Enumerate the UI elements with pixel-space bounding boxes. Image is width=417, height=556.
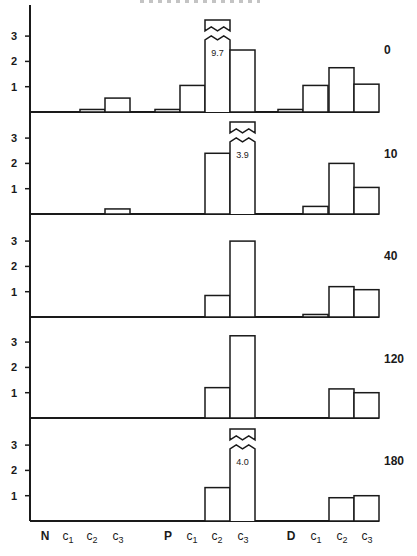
x-category-label: c3 — [361, 529, 372, 545]
bar — [354, 84, 379, 112]
bar — [354, 496, 379, 521]
panel-label: 10 — [384, 147, 398, 161]
bar — [80, 109, 105, 112]
x-category-label: c2 — [336, 529, 347, 545]
y-tick-label: 2 — [11, 260, 17, 272]
y-tick-label: 1 — [11, 286, 17, 298]
panel-label: 40 — [384, 249, 398, 263]
panel-label: 120 — [384, 352, 404, 366]
broken-bar-value: 9.7 — [211, 48, 224, 58]
y-tick-label: 1 — [11, 490, 17, 502]
bar — [180, 85, 205, 112]
bar — [329, 498, 354, 521]
x-category-label: c1 — [186, 529, 197, 545]
bar — [205, 488, 230, 521]
y-tick-label: 1 — [11, 81, 17, 93]
x-category-label: D — [287, 529, 296, 543]
panel-180: 1231804.0 — [11, 429, 404, 521]
bar — [230, 336, 255, 418]
panel-label: 180 — [384, 454, 404, 468]
bar — [303, 85, 328, 112]
y-tick-label: 1 — [11, 183, 17, 195]
broken-bar-value: 3.9 — [236, 150, 249, 160]
panel-0: 12309.7 — [11, 20, 391, 112]
bar — [230, 241, 255, 317]
x-category-label: c1 — [310, 529, 321, 545]
panel-120: 123120 — [11, 336, 404, 418]
broken-bar-cap — [205, 20, 230, 31]
bar — [329, 163, 354, 214]
bar — [354, 393, 379, 418]
bar — [354, 187, 379, 214]
bar — [205, 153, 230, 214]
panel-10: 123103.9 — [11, 122, 398, 214]
bar — [105, 98, 130, 112]
bar — [230, 50, 255, 112]
bar — [205, 388, 230, 418]
bar — [329, 287, 354, 317]
y-tick-label: 3 — [11, 336, 17, 348]
x-category-label: c3 — [112, 529, 123, 545]
y-tick-label: 3 — [11, 439, 17, 451]
y-tick-label: 3 — [11, 235, 17, 247]
y-tick-label: 2 — [11, 157, 17, 169]
x-category-label: c3 — [237, 529, 248, 545]
y-tick-label: 2 — [11, 464, 17, 476]
x-category-label: P — [164, 529, 172, 543]
bar — [329, 389, 354, 418]
y-tick-label: 3 — [11, 30, 17, 42]
bar — [303, 314, 328, 317]
x-category-label: N — [41, 529, 50, 543]
x-category-label: c2 — [86, 529, 97, 545]
x-category-label: c2 — [211, 529, 222, 545]
stacked-histogram-chart: 12309.7123103.9123401231201231804.0Nc1c2… — [0, 0, 417, 556]
panel-40: 12340 — [11, 235, 398, 317]
bar — [303, 206, 328, 214]
bar — [155, 109, 180, 112]
bar — [354, 290, 379, 317]
y-tick-label: 1 — [11, 387, 17, 399]
broken-bar-cap — [230, 122, 255, 133]
panel-label: 0 — [384, 43, 391, 57]
y-tick-label: 3 — [11, 132, 17, 144]
broken-bar-cap — [230, 429, 255, 440]
bar — [278, 109, 303, 112]
y-tick-label: 2 — [11, 361, 17, 373]
bar — [105, 209, 130, 214]
y-tick-label: 2 — [11, 55, 17, 67]
x-category-label: c1 — [62, 529, 73, 545]
bar — [205, 295, 230, 317]
broken-bar-value: 4.0 — [236, 457, 249, 467]
bar — [329, 68, 354, 112]
